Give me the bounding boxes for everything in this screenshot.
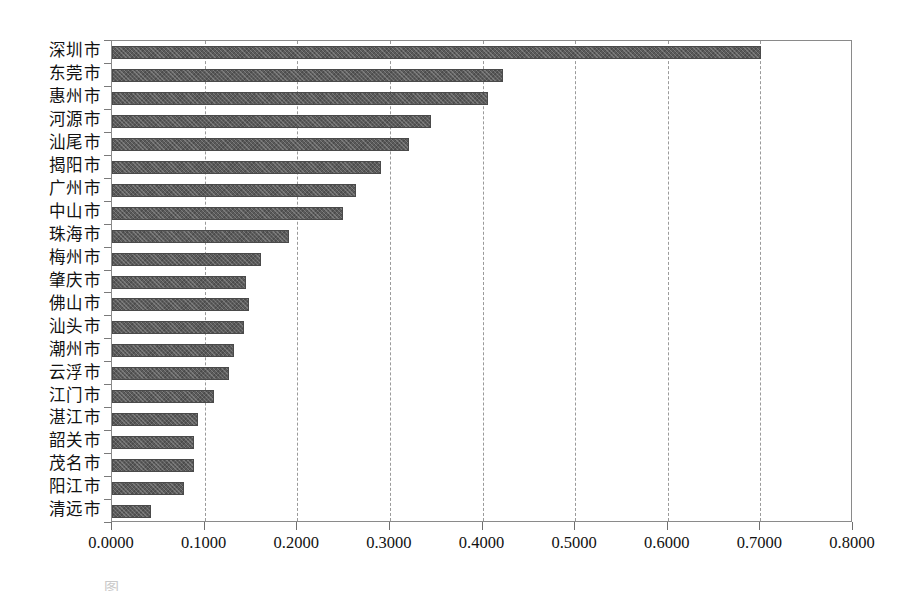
y-axis-label-row: 江门市 bbox=[0, 384, 111, 407]
y-axis-label-row: 汕尾市 bbox=[0, 132, 111, 155]
x-axis-tick bbox=[296, 522, 297, 530]
y-axis-tick bbox=[104, 63, 111, 64]
y-axis-tick-label: 中山市 bbox=[49, 204, 112, 221]
bar-row bbox=[112, 477, 851, 500]
bar-row bbox=[112, 202, 851, 225]
y-axis-tick bbox=[104, 40, 111, 41]
y-axis-tick-label: 东莞市 bbox=[49, 66, 112, 83]
bar-row bbox=[112, 408, 851, 431]
y-axis-tick-label: 云浮市 bbox=[49, 365, 112, 382]
y-axis-tick-label: 清远市 bbox=[49, 502, 112, 519]
bar bbox=[112, 413, 198, 426]
bar bbox=[112, 344, 234, 357]
y-axis-label-row: 揭阳市 bbox=[0, 155, 111, 178]
y-axis-tick bbox=[104, 224, 111, 225]
bar bbox=[112, 390, 214, 403]
bar bbox=[112, 321, 244, 334]
y-axis-label-row: 肇庆市 bbox=[0, 270, 111, 293]
y-axis-tick-label: 湛江市 bbox=[49, 410, 112, 427]
bar bbox=[112, 184, 356, 197]
x-axis-tick bbox=[759, 522, 760, 530]
bar bbox=[112, 436, 194, 449]
y-axis-tick-label: 江门市 bbox=[49, 388, 112, 405]
bar-row bbox=[112, 41, 851, 64]
y-axis-tick-label: 茂名市 bbox=[49, 456, 112, 473]
bar-row bbox=[112, 179, 851, 202]
y-axis-category-labels: 深圳市东莞市惠州市河源市汕尾市揭阳市广州市中山市珠海市梅州市肇庆市佛山市汕头市潮… bbox=[0, 40, 111, 522]
bar-row bbox=[112, 110, 851, 133]
bar-chart: 深圳市东莞市惠州市河源市汕尾市揭阳市广州市中山市珠海市梅州市肇庆市佛山市汕头市潮… bbox=[0, 0, 913, 591]
y-axis-label-row: 东莞市 bbox=[0, 63, 111, 86]
bar-row bbox=[112, 316, 851, 339]
y-axis-tick-label: 潮州市 bbox=[49, 342, 112, 359]
bar bbox=[112, 253, 261, 266]
y-axis-tick bbox=[104, 178, 111, 179]
y-axis-tick bbox=[104, 361, 111, 362]
bar-row bbox=[112, 339, 851, 362]
y-axis-label-row: 梅州市 bbox=[0, 247, 111, 270]
y-axis-tick bbox=[104, 86, 111, 87]
bar bbox=[112, 46, 761, 59]
bar-row bbox=[112, 385, 851, 408]
bar-row bbox=[112, 87, 851, 110]
bar bbox=[112, 161, 381, 174]
y-axis-tick bbox=[104, 476, 111, 477]
bar-row bbox=[112, 431, 851, 454]
bar bbox=[112, 459, 194, 472]
x-axis-tick bbox=[204, 522, 205, 530]
y-axis-tick-label: 惠州市 bbox=[49, 89, 112, 106]
y-axis-tick bbox=[104, 292, 111, 293]
y-axis-label-row: 潮州市 bbox=[0, 338, 111, 361]
y-axis-tick bbox=[104, 247, 111, 248]
x-axis-tick bbox=[389, 522, 390, 530]
x-axis-tick-label: 0.8000 bbox=[797, 533, 907, 553]
bar-row bbox=[112, 225, 851, 248]
y-axis-label-row: 韶关市 bbox=[0, 430, 111, 453]
bar-row bbox=[112, 500, 851, 523]
x-axis-tick bbox=[667, 522, 668, 530]
y-axis-tick-label: 韶关市 bbox=[49, 433, 112, 450]
bar bbox=[112, 207, 343, 220]
y-axis-tick bbox=[104, 155, 111, 156]
y-axis-tick-label: 揭阳市 bbox=[49, 158, 112, 175]
x-axis-tick bbox=[482, 522, 483, 530]
y-axis-label-row: 湛江市 bbox=[0, 407, 111, 430]
y-axis-tick-label: 河源市 bbox=[49, 112, 112, 129]
bar-row bbox=[112, 362, 851, 385]
bar-row bbox=[112, 454, 851, 477]
bar bbox=[112, 69, 503, 82]
y-axis-tick bbox=[104, 270, 111, 271]
y-axis-tick-label: 佛山市 bbox=[49, 296, 112, 313]
bar bbox=[112, 276, 246, 289]
y-axis-tick bbox=[104, 201, 111, 202]
bar-row bbox=[112, 156, 851, 179]
y-axis-tick-label: 汕尾市 bbox=[49, 135, 112, 152]
y-axis-label-row: 广州市 bbox=[0, 178, 111, 201]
bar-row bbox=[112, 271, 851, 294]
plot-area bbox=[111, 40, 852, 522]
y-axis-tick bbox=[104, 132, 111, 133]
y-axis-label-row: 深圳市 bbox=[0, 40, 111, 63]
y-axis-tick-label: 珠海市 bbox=[49, 227, 112, 244]
x-axis-tick bbox=[852, 522, 853, 530]
y-axis-tick bbox=[104, 453, 111, 454]
bar bbox=[112, 92, 488, 105]
y-axis-tick bbox=[104, 315, 111, 316]
y-axis-tick bbox=[104, 384, 111, 385]
y-axis-label-row: 中山市 bbox=[0, 201, 111, 224]
bar bbox=[112, 230, 289, 243]
y-axis-label-row: 云浮市 bbox=[0, 361, 111, 384]
y-axis-tick-label: 肇庆市 bbox=[49, 273, 112, 290]
bar bbox=[112, 505, 151, 518]
y-axis-tick-label: 阳江市 bbox=[49, 479, 112, 496]
y-axis-tick bbox=[104, 338, 111, 339]
y-axis-tick bbox=[104, 109, 111, 110]
bars-layer bbox=[112, 41, 851, 521]
x-axis: 0.00000.10000.20000.30000.40000.50000.60… bbox=[0, 522, 913, 582]
bar bbox=[112, 367, 229, 380]
x-axis-tick bbox=[111, 522, 112, 530]
y-axis-label-row: 阳江市 bbox=[0, 476, 111, 499]
bar bbox=[112, 482, 184, 495]
bar bbox=[112, 298, 249, 311]
y-axis-label-row: 茂名市 bbox=[0, 453, 111, 476]
